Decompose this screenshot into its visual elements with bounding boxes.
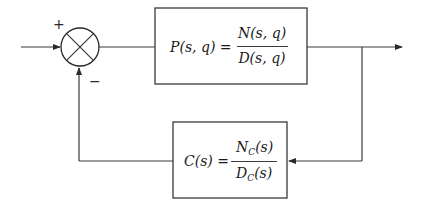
controller-denominator-arg: (s)	[254, 165, 272, 181]
controller-denominator: DC(s)	[235, 165, 272, 183]
plus-sign: +	[53, 16, 65, 32]
plant-denominator: D(s, q)	[237, 50, 285, 66]
block-diagram: + − P(s, q) = N(s, q) D(s, q) C(s) = NC(…	[0, 0, 422, 207]
controller-numerator-arg: (s)	[255, 139, 273, 155]
minus-sign: −	[89, 73, 101, 89]
summing-junction	[61, 28, 99, 66]
plant-numerator: N(s, q)	[237, 25, 286, 41]
controller-denominator-main: D	[235, 165, 247, 181]
plant-lhs: P(s, q) =	[169, 39, 232, 55]
controller-lhs: C(s) =	[184, 153, 229, 169]
controller-numerator-main: N	[235, 139, 249, 155]
